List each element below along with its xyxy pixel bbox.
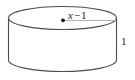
radius-label: x−1 <box>68 10 87 21</box>
cylinder-top-ellipse <box>9 7 117 30</box>
center-point-dot <box>61 18 65 22</box>
radius-operator: − <box>73 9 81 21</box>
height-label: 1 <box>121 36 127 47</box>
cylinder-figure: x−1 1 <box>0 0 135 80</box>
cylinder-bottom-arc <box>9 60 117 72</box>
radius-constant: 1 <box>81 9 87 21</box>
